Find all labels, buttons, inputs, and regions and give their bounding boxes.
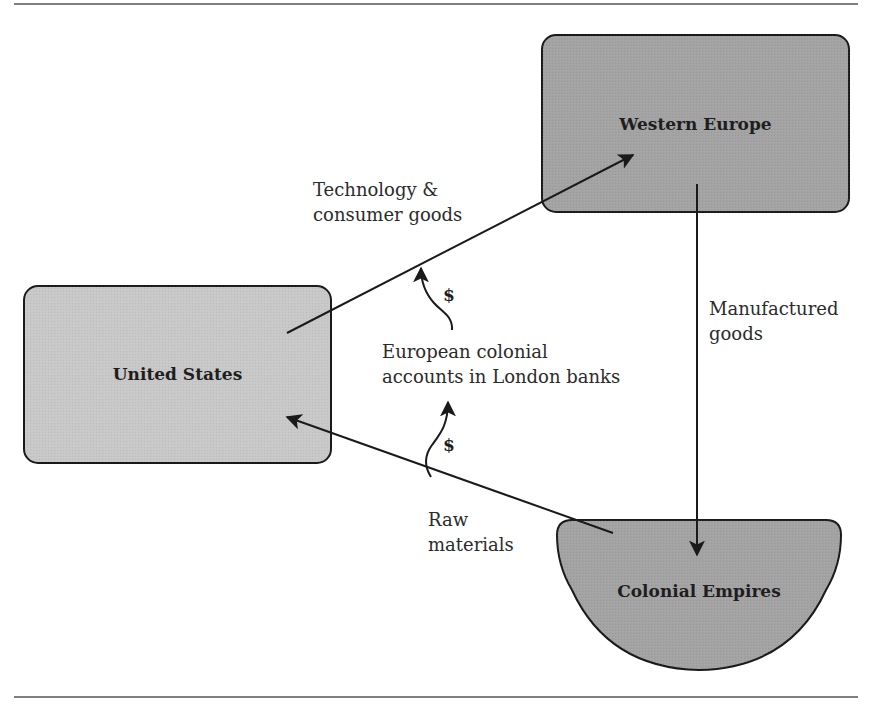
us-to-europe-label-line1: Technology & [313, 177, 462, 202]
united-states-label: United States [24, 364, 331, 384]
colonies-to-us-label-line1: Raw [428, 507, 514, 532]
western-europe-label: Western Europe [542, 114, 849, 134]
europe-to-colonies-label-line2: goods [709, 321, 838, 346]
dollar-symbol-lower: $ [443, 435, 455, 455]
europe-to-colonies-label: Manufactured goods [709, 296, 838, 346]
london-accounts-label: European colonial accounts in London ban… [382, 339, 620, 389]
us-to-europe-label-line2: consumer goods [313, 202, 462, 227]
colonial-empires-label: Colonial Empires [557, 581, 841, 601]
dollar-symbol-upper: $ [443, 285, 455, 305]
london-accounts-label-line1: European colonial [382, 339, 620, 364]
london-accounts-label-line2: accounts in London banks [382, 364, 620, 389]
colonies-to-us-label-line2: materials [428, 532, 514, 557]
europe-to-colonies-label-line1: Manufactured [709, 296, 838, 321]
us-to-europe-label: Technology & consumer goods [313, 177, 462, 227]
colonies-to-us-label: Raw materials [428, 507, 514, 557]
